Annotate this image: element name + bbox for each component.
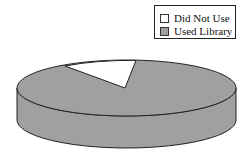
legend: Did Not Use Used Library <box>154 5 236 39</box>
legend-label: Used Library <box>174 25 232 37</box>
legend-label: Did Not Use <box>174 12 230 24</box>
legend-swatch-white <box>160 14 169 23</box>
legend-item-used-library: Used Library <box>160 25 232 37</box>
legend-item-did-not-use: Did Not Use <box>160 12 230 24</box>
legend-swatch-gray <box>160 27 169 36</box>
